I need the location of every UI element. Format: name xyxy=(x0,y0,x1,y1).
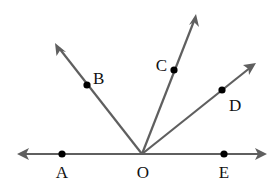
label-B: B xyxy=(93,69,104,88)
label-O: O xyxy=(137,163,149,182)
label-C: C xyxy=(156,56,167,75)
ray-OB xyxy=(59,48,142,154)
angle-diagram: A O E B C D xyxy=(0,0,278,192)
point-D xyxy=(218,86,225,93)
label-E: E xyxy=(219,163,229,182)
arrow-C-icon xyxy=(189,14,199,27)
point-A xyxy=(58,150,65,157)
label-D: D xyxy=(229,96,241,115)
point-E xyxy=(220,150,227,157)
point-C xyxy=(170,66,177,73)
point-B xyxy=(83,81,90,88)
label-A: A xyxy=(56,163,69,182)
diagram-canvas: A O E B C D xyxy=(0,0,278,192)
